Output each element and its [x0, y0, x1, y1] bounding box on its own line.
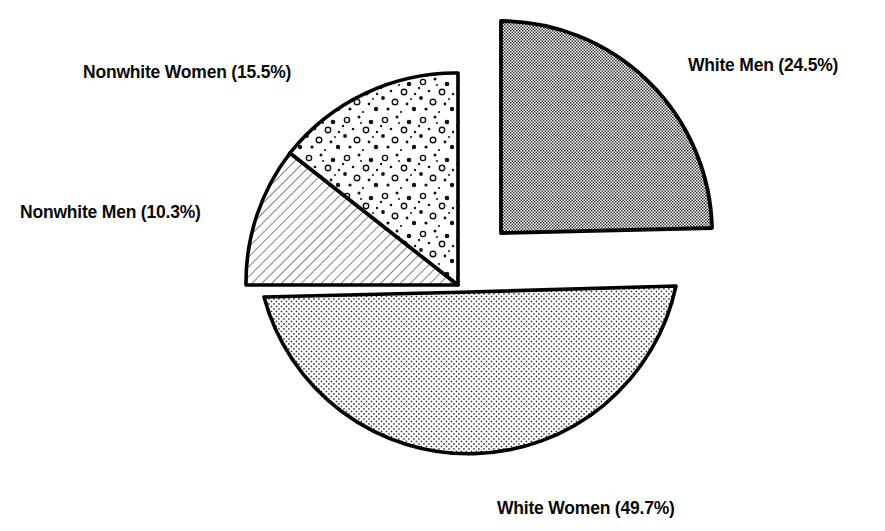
pie-slice-white-women[interactable]	[264, 286, 676, 454]
slice-label-white-women: White Women (49.7%)	[497, 500, 675, 518]
slice-label-nonwhite-women: Nonwhite Women (15.5%)	[83, 64, 291, 82]
pie-slice-white-women-path[interactable]	[264, 286, 676, 454]
pie-slice-white-men[interactable]	[501, 21, 712, 233]
pie-chart-figure: White Men (24.5%) Nonwhite Women (15.5%)…	[0, 0, 885, 531]
pie-slice-white-men-path[interactable]	[501, 21, 712, 233]
slice-label-nonwhite-men: Nonwhite Men (10.3%)	[20, 204, 201, 222]
slice-label-white-men: White Men (24.5%)	[688, 57, 838, 75]
